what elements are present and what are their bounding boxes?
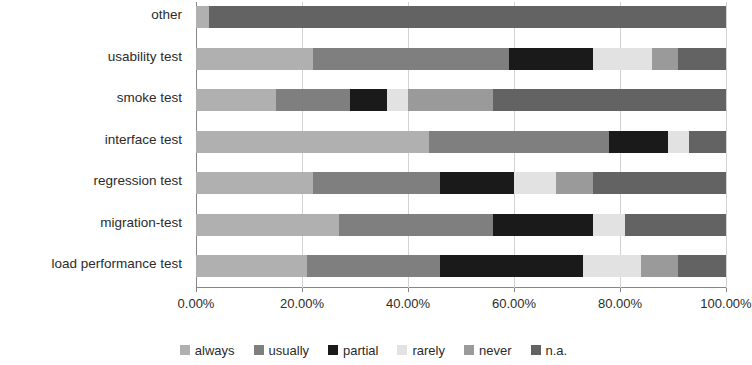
category-label: migration-test (100, 216, 182, 230)
bar-segment-usually (313, 48, 509, 70)
bar-segment-usually (313, 172, 440, 194)
bar-segment-rarely (387, 89, 408, 111)
axis-tick (408, 288, 409, 292)
bar-segment-always (196, 89, 276, 111)
category-label: load performance test (51, 257, 182, 271)
legend-item-na[interactable]: n.a. (531, 343, 568, 358)
bar-segment-always (196, 131, 429, 153)
bar-segment-usually (429, 131, 609, 153)
bar-segment-na (678, 255, 726, 277)
category-label: usability test (108, 50, 182, 64)
bar-segment-partial (493, 214, 594, 236)
legend-swatch-icon (328, 345, 338, 355)
bar-row (196, 255, 726, 277)
bar-segment-usually (307, 255, 440, 277)
bar-segment-partial (609, 131, 667, 153)
legend-label: n.a. (546, 343, 568, 358)
bar-segment-never (652, 48, 679, 70)
axis-tick (514, 288, 515, 292)
category-label: other (151, 8, 182, 22)
bar-segment-partial (509, 48, 594, 70)
bar-segment-rarely (593, 214, 625, 236)
bar-segment-partial (440, 255, 583, 277)
value-axis-tick-label: 60.00% (492, 296, 536, 311)
bar-row (196, 214, 726, 236)
category-axis-line (196, 287, 726, 288)
axis-tick (620, 288, 621, 292)
value-axis-tick-label: 40.00% (386, 296, 430, 311)
bar-segment-never (556, 172, 593, 194)
bar-segment-always (196, 6, 209, 28)
bar-segment-usually (339, 214, 493, 236)
legend-item-rarely[interactable]: rarely (397, 343, 445, 358)
axis-tick (196, 288, 197, 292)
legend-swatch-icon (180, 345, 190, 355)
bar-segment-partial (440, 172, 514, 194)
legend-swatch-icon (531, 345, 541, 355)
category-axis-labels: otherusability testsmoke testinterface t… (0, 0, 190, 288)
bar-segment-never (641, 255, 678, 277)
category-label: regression test (93, 174, 182, 188)
value-axis-tick-label: 20.00% (280, 296, 324, 311)
legend-label: usually (269, 343, 309, 358)
category-label: interface test (105, 133, 182, 147)
chart-legend: alwaysusuallypartialrarelynevern.a. (0, 339, 747, 361)
legend-label: partial (343, 343, 378, 358)
bar-row (196, 89, 726, 111)
legend-swatch-icon (464, 345, 474, 355)
value-axis-tick-label: 100.00% (700, 296, 751, 311)
bar-segment-rarely (514, 172, 556, 194)
bar-segment-na (689, 131, 726, 153)
bar-segment-rarely (668, 131, 689, 153)
bar-segment-na (493, 89, 726, 111)
category-label: smoke test (117, 91, 182, 105)
bar-segment-always (196, 172, 313, 194)
value-axis-tick-label: 0.00% (178, 296, 215, 311)
bar-row (196, 48, 726, 70)
legend-item-usually[interactable]: usually (254, 343, 309, 358)
gridline (726, 2, 727, 288)
legend-item-always[interactable]: always (180, 343, 235, 358)
legend-label: rarely (412, 343, 445, 358)
bar-segment-na (209, 6, 726, 28)
bar-segment-na (625, 214, 726, 236)
bar-segment-na (678, 48, 726, 70)
plot-area (196, 2, 726, 288)
bar-segment-partial (350, 89, 387, 111)
legend-label: always (195, 343, 235, 358)
axis-tick (726, 288, 727, 292)
bar-row (196, 6, 726, 28)
bar-segment-usually (276, 89, 350, 111)
bar-row (196, 131, 726, 153)
legend-label: never (479, 343, 512, 358)
legend-swatch-icon (397, 345, 407, 355)
axis-tick (302, 288, 303, 292)
legend-item-partial[interactable]: partial (328, 343, 378, 358)
plot-wrapper: otherusability testsmoke testinterface t… (0, 0, 747, 290)
bar-segment-rarely (593, 48, 651, 70)
bar-segment-always (196, 214, 339, 236)
legend-item-never[interactable]: never (464, 343, 512, 358)
bar-row (196, 172, 726, 194)
bar-segment-rarely (583, 255, 641, 277)
value-axis-labels: 0.00%20.00%40.00%60.00%80.00%100.00% (0, 296, 747, 316)
bar-segment-always (196, 48, 313, 70)
bar-segment-na (593, 172, 726, 194)
value-axis-tick-label: 80.00% (598, 296, 642, 311)
legend-swatch-icon (254, 345, 264, 355)
bar-segment-always (196, 255, 307, 277)
bar-segment-never (408, 89, 493, 111)
